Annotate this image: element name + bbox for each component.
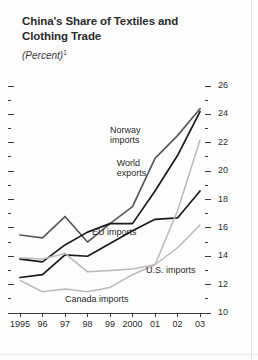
- x-axis: [12, 313, 211, 317]
- page-title-line-2: Clothing Trade: [22, 29, 212, 44]
- x-axis-tick-label: 2000: [122, 319, 142, 329]
- x-axis-tick-label: 1995: [10, 319, 30, 329]
- y-axis-tick-label: 18: [218, 194, 240, 204]
- series-label: World exports: [117, 158, 163, 179]
- plot-area: 101214161820222426 199596979899200001020…: [0, 74, 258, 324]
- x-axis-tick-label: 01: [150, 319, 160, 329]
- y-axis-tick-label: 14: [218, 250, 240, 260]
- x-axis-tick-label: 03: [195, 319, 205, 329]
- chart-title-block: China's Share of Textiles and Clothing T…: [22, 14, 212, 62]
- bottom-divider: [0, 354, 258, 355]
- y-axis-tick-label: 22: [218, 137, 240, 147]
- page-title-line-1: China's Share of Textiles and: [22, 14, 212, 29]
- y-axis-tick-label: 16: [218, 222, 240, 232]
- series-label: Canada imports: [65, 294, 129, 305]
- y-axis-tick-label: 24: [218, 108, 240, 118]
- footnote-marker: 1: [63, 49, 67, 56]
- x-axis-tick-label: 96: [37, 319, 47, 329]
- series-label: U.S. imports: [146, 265, 196, 276]
- y-axis-tick-label: 10: [218, 307, 240, 317]
- x-axis-tick-label: 99: [105, 319, 115, 329]
- figure-container: China's Share of Textiles and Clothing T…: [0, 0, 258, 360]
- y-axis-tick-label: 12: [218, 279, 240, 289]
- x-axis-tick-label: 97: [60, 319, 70, 329]
- series-label: EU imports: [92, 227, 137, 238]
- chart-subtitle-text: (Percent): [22, 50, 63, 61]
- y-axis-tick-label: 26: [218, 80, 240, 90]
- chart-subtitle: (Percent)1: [22, 47, 212, 62]
- series-label: Norway imports: [110, 125, 156, 146]
- x-axis-tick-label: 02: [172, 319, 182, 329]
- x-axis-tick-label: 98: [82, 319, 92, 329]
- y-axis-tick-label: 20: [218, 165, 240, 175]
- right-divider: [251, 0, 252, 360]
